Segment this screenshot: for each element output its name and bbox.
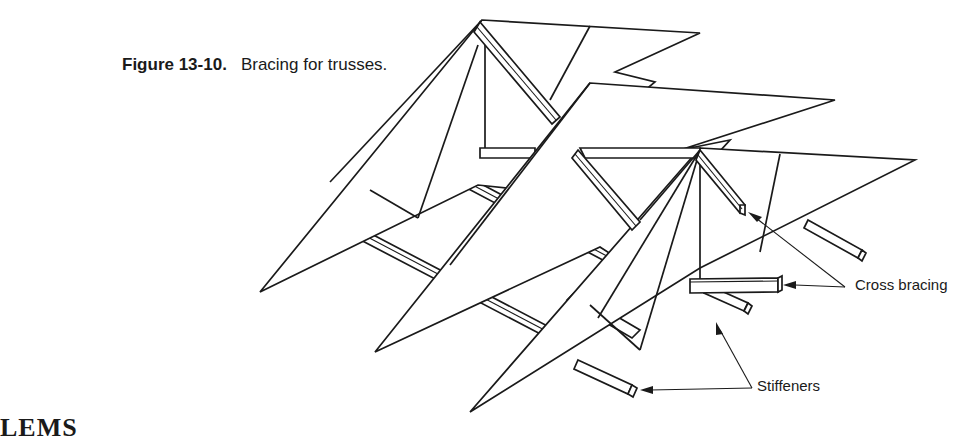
next-section-heading-fragment: LEMS [0,415,78,440]
cross-bracing-label: Cross bracing [855,276,948,293]
stiffeners-label: Stiffeners [757,377,820,394]
